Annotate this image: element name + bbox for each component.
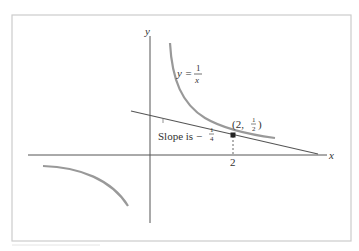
hyperbola-left-branch bbox=[43, 166, 128, 206]
figure-frame bbox=[12, 15, 351, 241]
slope-denominator: 4 bbox=[210, 135, 214, 143]
point-label-denominator: 2 bbox=[252, 125, 256, 133]
y-axis-label: y bbox=[144, 25, 150, 37]
point-label-open: (2, bbox=[232, 118, 244, 131]
point-label-close: ) bbox=[258, 118, 262, 131]
x-axis-label: x bbox=[328, 149, 334, 161]
equation-denominator: x bbox=[194, 75, 199, 85]
x-tick-label-2: 2 bbox=[230, 156, 236, 168]
equation-lhs: y = bbox=[176, 67, 192, 79]
curve-equation-label: y = 1 x bbox=[176, 63, 202, 85]
slope-text: Slope is − bbox=[158, 130, 202, 142]
equation-numerator: 1 bbox=[196, 63, 201, 73]
point-label-numerator: 1 bbox=[252, 116, 256, 124]
slope-numerator: 1 bbox=[210, 126, 214, 134]
tangent-point-marker bbox=[231, 133, 236, 138]
hyperbola-tangent-diagram: x y 2 y = 1 x (2, 1 2 ) Slope is − 1 4 bbox=[0, 0, 359, 251]
